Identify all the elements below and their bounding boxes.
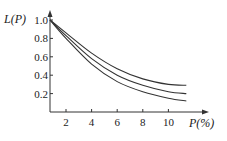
y-tick-label: 0.8 [34,32,48,44]
y-tick-label: 1.0 [34,14,48,26]
curve-lower [50,20,186,101]
x-axis-arrow-icon [202,110,209,115]
x-tick-label: 4 [89,116,95,128]
y-axis-arrow-icon [48,10,53,17]
y-tick-label: 0.4 [34,69,48,81]
x-tick-label: 8 [140,116,146,128]
x-tick-label: 10 [163,116,175,128]
x-tick-label: 2 [63,116,69,128]
curves [50,20,186,101]
x-tick-label: 6 [114,116,120,128]
y-tick-label: 0.2 [34,88,48,100]
line-chart: 2468100.20.40.60.81.0 L(P) P(%) [0,0,227,141]
x-axis-title: P(%) [188,116,214,130]
axes: 2468100.20.40.60.81.0 [34,10,209,128]
y-axis-title: L(P) [3,12,26,26]
y-tick-label: 0.6 [34,51,48,63]
